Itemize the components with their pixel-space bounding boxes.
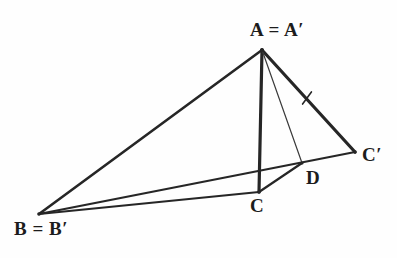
- vertex-dot-a: [260, 48, 264, 52]
- vertex-label-cprime-text: C′: [362, 144, 382, 165]
- vertex-label-cprime: C′: [362, 145, 382, 164]
- vertex-label-c-text: C: [250, 195, 264, 216]
- vertex-label-a-text: A = A′: [250, 19, 304, 40]
- vertex-label-a: A = A′: [250, 20, 304, 39]
- vertex-dot-d: [300, 161, 303, 164]
- vertex-dot-c: [257, 190, 261, 194]
- geometry-figure: A = A′ B = B′ C C′ D: [0, 0, 397, 258]
- vertex-label-b: B = B′: [14, 219, 68, 238]
- vertex-label-c: C: [250, 196, 264, 215]
- vertex-dot-cprime: [353, 150, 357, 154]
- vertex-dot-b: [37, 212, 41, 216]
- vertex-label-d-text: D: [306, 167, 320, 188]
- vertex-label-d: D: [306, 168, 320, 187]
- vertex-label-b-text: B = B′: [14, 218, 68, 239]
